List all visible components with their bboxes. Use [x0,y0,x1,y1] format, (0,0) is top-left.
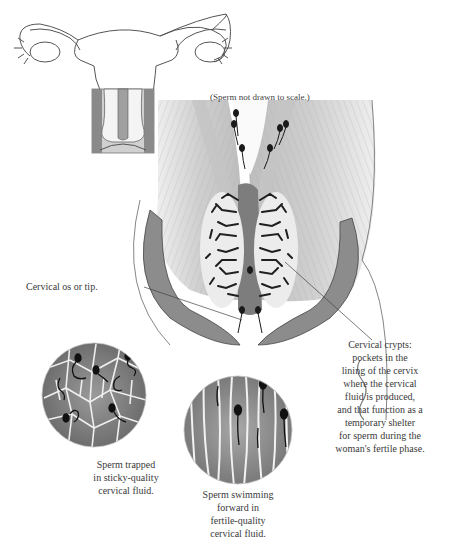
crypts-line: lining of the cervix [310,364,450,377]
scale-note: (Sperm not drawn to scale.) [210,92,310,102]
cervical-os-label: Cervical os or tip. [26,281,98,292]
crypts-line: and that function as a [310,403,450,416]
crypts-line: fluid is produced, [310,390,450,403]
crypts-line: temporary shelter [310,416,450,429]
crypts-line: woman's fertile phase. [310,442,450,455]
crypts-line: pockets in the [310,351,450,364]
caption-line: Sperm swimming [182,488,294,501]
crypts-line: for sperm during the [310,429,450,442]
cervical-crypts-label: Cervical crypts: pockets in the lining o… [310,338,450,455]
caption-line: cervical fluid. [56,484,196,497]
caption-line: Sperm trapped [56,458,196,471]
caption-line: fertile-quality [182,514,294,527]
caption-line: cervical fluid. [182,527,294,540]
crypts-line: where the cervical [310,377,450,390]
sticky-fluid-caption: Sperm trapped in sticky-quality cervical… [56,458,196,497]
fertile-fluid-caption: Sperm swimming forward in fertile-qualit… [182,488,294,540]
caption-line: in sticky-quality [56,471,196,484]
cervix-inset [92,89,154,153]
crypts-line: Cervical crypts: [310,338,450,351]
caption-line: forward in [182,501,294,514]
